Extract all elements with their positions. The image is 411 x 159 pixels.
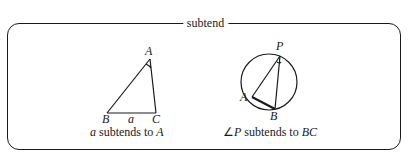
caption-text: subtends to <box>96 125 156 139</box>
circle-figure <box>241 54 297 110</box>
point-p-label: P <box>275 39 284 53</box>
caption-target: BC <box>302 125 317 139</box>
triangle-caption: a subtends to A <box>90 125 164 140</box>
chord-pb <box>275 56 280 109</box>
chord-pa <box>252 56 280 97</box>
side-a-label: a <box>128 112 134 126</box>
caption-text: subtends to <box>241 125 301 139</box>
vertex-c-label: C <box>152 112 161 126</box>
vertex-b-label: B <box>102 112 110 126</box>
triangle-figure <box>107 59 156 113</box>
circle-caption: ∠P subtends to BC <box>223 125 317 140</box>
caption-target: A <box>156 125 163 139</box>
angle-symbol: ∠ <box>223 125 234 139</box>
circle <box>241 54 297 110</box>
chord-ab <box>252 97 275 109</box>
diagram-canvas: A B C a P A B <box>0 0 411 159</box>
point-a-label: A <box>239 90 248 104</box>
side-ab <box>107 59 150 113</box>
point-b-label: B <box>270 109 278 123</box>
vertex-a-label: A <box>144 44 153 58</box>
